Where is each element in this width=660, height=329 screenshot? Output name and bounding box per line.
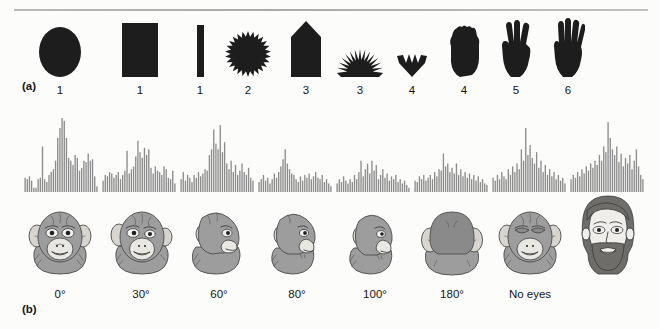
face-stimulus-monkey-100: 100° [336,196,414,300]
top-divider-rule [14,9,648,11]
ellipse-shape [28,18,92,78]
histogram-4 [258,118,332,192]
histogram-1 [24,118,98,192]
shape-response-count: 1 [28,84,92,96]
face-stimulus-monkey-front: 0° [21,196,99,300]
monkey-30-icon [102,200,180,280]
monkey-60-icon [180,200,258,280]
histogram-8 [570,118,644,192]
face-stimulus-label: 180° [413,288,491,300]
monkey-back-icon [413,200,491,280]
histogram-5 [336,118,410,192]
stimulus-shape-rectangle: 1 [108,16,172,96]
face-stimulus-monkey-no-eyes: No eyes [491,196,569,300]
face-stimulus-label: 60° [180,288,258,300]
shape-response-count: 2 [216,84,280,96]
face-stimulus-monkey-back: 180° [413,196,491,300]
monkey-80-icon [258,200,336,280]
shape-response-count: 1 [108,84,172,96]
hand-spread-shape [536,18,600,78]
monkey-no-eyes-icon [491,200,569,280]
histogram-2 [102,118,176,192]
histogram-6 [414,118,488,192]
stimulus-shape-starburst-disc: 2 [216,16,280,96]
rectangle-shape [108,18,172,78]
stimulus-shape-ellipse: 1 [28,16,92,96]
panel-b-label: (b) [22,303,37,315]
stimulus-shape-hand-spread: 6 [536,16,600,96]
stimulus-shape-row: 1112334456 [0,16,660,96]
figure-root: (a) 1112334456 0°30°60°80°100°180°No eye… [0,0,660,329]
face-stimulus-label: 80° [258,288,336,300]
shape-response-count: 6 [536,84,600,96]
cropped-caption [190,0,520,6]
face-stimulus-row: 0°30°60°80°100°180°No eyes [0,196,660,300]
monkey-100-icon [336,200,414,280]
face-stimulus-human-bearded-face [569,196,647,300]
monkey-front-icon [21,200,99,280]
face-stimulus-label: 30° [102,288,180,300]
face-stimulus-monkey-60: 60° [180,196,258,300]
face-stimulus-label: 100° [336,288,414,300]
histogram-3 [180,118,254,192]
histogram-row [0,118,660,192]
human-bearded-face-icon [569,200,647,280]
face-stimulus-monkey-30: 30° [102,196,180,300]
histogram-7 [492,118,566,192]
face-stimulus-monkey-80: 80° [258,196,336,300]
face-stimulus-label: 0° [21,288,99,300]
starburst-disc-shape [216,18,280,78]
face-stimulus-label: No eyes [491,288,569,300]
